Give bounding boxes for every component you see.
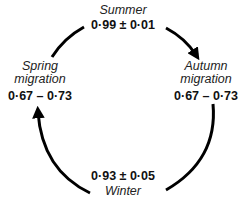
value-winter: 0·93 ± 0·05 xyxy=(73,170,173,183)
season-label-summer: Summer xyxy=(73,4,173,17)
node-spring-migration: Spring migration 0·67 – 0·73 xyxy=(0,60,80,103)
season-label-winter: Winter xyxy=(73,185,173,198)
value-autumn: 0·67 – 0·73 xyxy=(166,90,246,103)
value-summer: 0·99 ± 0·01 xyxy=(73,19,173,32)
arc-autumn-to-winter xyxy=(166,104,213,190)
season-label-spring-line2: migration xyxy=(0,73,80,86)
season-label-autumn-line2: migration xyxy=(166,73,246,86)
node-summer: Summer 0·99 ± 0·01 xyxy=(73,4,173,32)
value-spring: 0·67 – 0·73 xyxy=(0,90,80,103)
node-autumn-migration: Autumn migration 0·67 – 0·73 xyxy=(166,60,246,103)
node-winter: 0·93 ± 0·05 Winter xyxy=(73,170,173,198)
